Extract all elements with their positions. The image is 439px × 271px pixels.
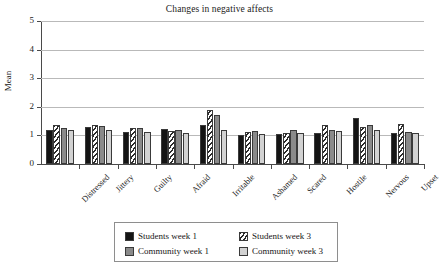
- bar-chart: Changes in negative affects Mean 012345 …: [0, 0, 439, 271]
- bar: [374, 130, 380, 164]
- bar: [221, 130, 227, 164]
- x-tick-mark: [386, 165, 387, 169]
- bar: [252, 131, 258, 164]
- x-category-label: Guilty: [152, 172, 174, 194]
- bar: [329, 130, 335, 164]
- y-axis-label: Mean: [3, 56, 13, 106]
- y-tick-label: 0: [16, 159, 34, 168]
- gridline: [41, 21, 424, 22]
- gridline: [41, 107, 424, 108]
- x-tick-mark: [156, 165, 157, 169]
- bar: [85, 127, 91, 164]
- bar: [367, 125, 373, 164]
- y-tick-mark: [37, 164, 41, 165]
- x-tick-mark: [233, 165, 234, 169]
- legend-swatch: [125, 247, 134, 256]
- x-category-label: Upset: [419, 172, 439, 193]
- bar: [68, 130, 74, 164]
- gridline: [41, 78, 424, 79]
- x-category-label: Afraid: [190, 172, 213, 195]
- bar: [214, 115, 220, 164]
- legend-swatch: [239, 247, 248, 256]
- bar: [353, 118, 359, 164]
- bar: [175, 130, 181, 164]
- bar: [137, 128, 143, 164]
- plot-area: [41, 21, 424, 164]
- x-tick-mark: [347, 165, 348, 169]
- bar: [123, 132, 129, 164]
- x-category-label: Nervous: [383, 172, 410, 199]
- bar: [92, 125, 98, 164]
- bar: [405, 132, 411, 164]
- bar: [200, 125, 206, 164]
- y-tick-label: 4: [16, 45, 34, 54]
- x-category-label: Hostile: [344, 172, 368, 196]
- y-tick-label: 2: [16, 102, 34, 111]
- bar: [297, 133, 303, 164]
- x-tick-mark: [424, 165, 425, 169]
- bar: [130, 128, 136, 164]
- x-tick-mark: [118, 165, 119, 169]
- chart-title: Changes in negative affects: [0, 4, 439, 14]
- legend-label: Students week 1: [138, 231, 197, 241]
- legend-label: Students week 3: [252, 231, 311, 241]
- bar: [46, 130, 52, 164]
- legend-label: Community week 1: [138, 246, 209, 256]
- x-category-label: Irritable: [230, 172, 256, 198]
- x-tick-mark: [194, 165, 195, 169]
- bar: [336, 131, 342, 164]
- x-tick-mark: [309, 165, 310, 169]
- y-tick-label: 3: [16, 73, 34, 82]
- bar: [398, 124, 404, 164]
- bar: [245, 132, 251, 164]
- bar: [183, 133, 189, 164]
- bar: [412, 133, 418, 164]
- bar: [314, 133, 320, 164]
- bar: [259, 134, 265, 164]
- x-tick-mark: [271, 165, 272, 169]
- bar: [238, 135, 244, 164]
- bar: [276, 134, 282, 164]
- y-tick-label: 1: [16, 130, 34, 139]
- x-tick-mark: [79, 165, 80, 169]
- legend-swatch: [239, 232, 248, 241]
- legend: Students week 1Students week 3Community …: [114, 222, 338, 262]
- bar: [283, 133, 289, 164]
- x-category-label: Ashamed: [269, 172, 299, 202]
- x-category-label: Scared: [305, 172, 328, 195]
- x-category-label: Jittery: [113, 172, 135, 194]
- bar: [161, 129, 167, 164]
- bar: [391, 133, 397, 164]
- x-category-label: Distressed: [79, 172, 111, 204]
- bar: [106, 130, 112, 164]
- bar: [53, 125, 59, 164]
- bar: [290, 130, 296, 164]
- bar: [322, 125, 328, 164]
- gridline: [41, 50, 424, 51]
- legend-label: Community week 3: [252, 246, 323, 256]
- legend-swatch: [125, 232, 134, 241]
- bar: [207, 110, 213, 164]
- bar: [144, 132, 150, 164]
- bar: [360, 127, 366, 164]
- bar: [99, 126, 105, 164]
- y-tick-label: 5: [16, 16, 34, 25]
- bar: [168, 131, 174, 164]
- bar: [61, 128, 67, 164]
